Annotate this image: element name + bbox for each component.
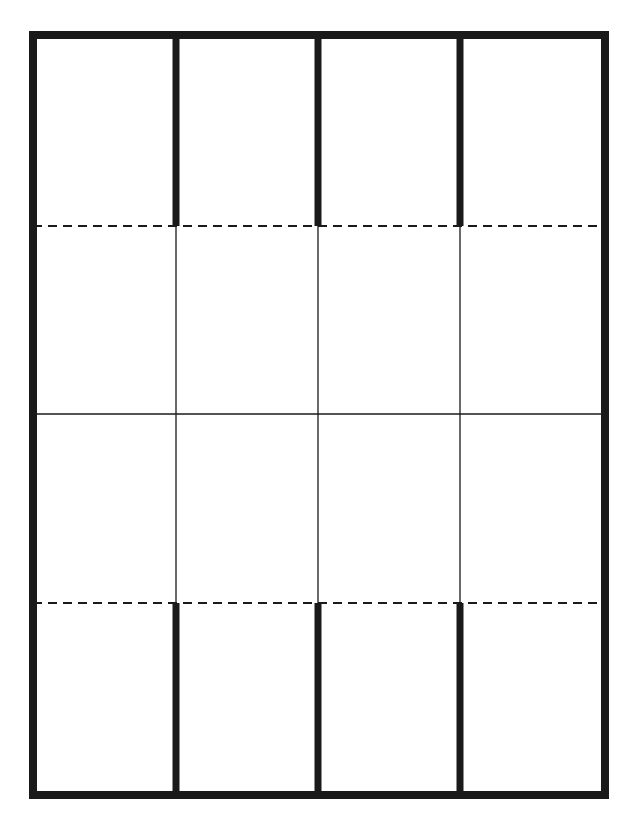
crease-lines (33, 226, 605, 603)
folding-template-diagram (0, 0, 639, 832)
